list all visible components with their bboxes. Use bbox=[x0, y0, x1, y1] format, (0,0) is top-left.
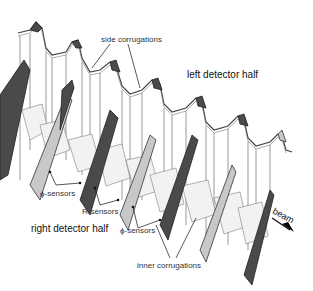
sensor-dark-2 bbox=[60, 80, 74, 130]
label-side-corrugations: side corrugations bbox=[101, 35, 162, 44]
label-r-sensors: R-sensors bbox=[82, 207, 118, 216]
label-beam: beam bbox=[271, 206, 296, 225]
label-phi-sensors-upper: ϕ-sensors bbox=[40, 189, 75, 198]
detector-diagram: side corrugations left detector half ϕ-s… bbox=[0, 0, 313, 291]
sensor-discs bbox=[0, 60, 274, 285]
label-left-detector-half: left detector half bbox=[187, 69, 258, 80]
label-right-detector-half: right detector half bbox=[31, 223, 108, 234]
label-inner-corrugations: inner corrugations bbox=[137, 261, 201, 270]
label-phi-sensors-lower: ϕ-sensors bbox=[120, 226, 155, 235]
